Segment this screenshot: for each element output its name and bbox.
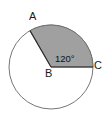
angle-measure-label: 120° [55,54,75,64]
vertex-label-b: B [45,68,52,79]
geometry-svg [0,0,108,115]
vertex-label-c: C [94,60,102,71]
vertex-label-a: A [29,11,36,22]
circle-sector-figure: A B C 120° [0,0,108,115]
